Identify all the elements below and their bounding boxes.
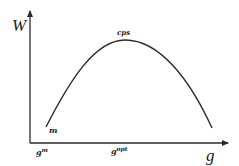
chart-canvas xyxy=(0,0,239,166)
start-point-label: m xyxy=(49,126,57,134)
x-tick-gopt: gopt xyxy=(111,146,128,155)
peak-label: cps xyxy=(117,29,130,36)
x-tick-gopt-sup: opt xyxy=(117,145,128,152)
x-tick-gm: gm xyxy=(36,147,48,156)
y-axis-label: W xyxy=(12,17,26,34)
welfare-curve xyxy=(46,40,212,128)
x-axis-label: g xyxy=(206,147,215,164)
x-tick-gm-sup: m xyxy=(42,146,48,153)
